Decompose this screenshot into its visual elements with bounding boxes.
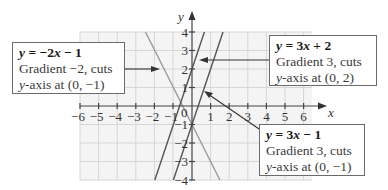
callout-left-gradient: Gradient −2, cuts: [19, 61, 119, 77]
callout-top-right-equation: y = 3x + 2: [276, 38, 371, 54]
svg-text:2: 2: [182, 62, 189, 77]
svg-text:4: 4: [263, 109, 270, 124]
callout-left-intercept: y-axis at (0, −1): [19, 77, 119, 93]
y-axis-label: y: [176, 9, 184, 24]
svg-text:−5: −5: [90, 109, 104, 124]
svg-text:1: 1: [182, 80, 189, 95]
svg-text:−2: −2: [174, 136, 188, 151]
svg-text:3: 3: [182, 43, 189, 58]
svg-text:5: 5: [282, 109, 289, 124]
svg-text:−2: −2: [145, 109, 159, 124]
svg-text:−3: −3: [174, 154, 188, 169]
svg-text:−1: −1: [174, 117, 188, 132]
svg-text:−4: −4: [108, 109, 122, 124]
callout-top-right-gradient: Gradient 3, cuts: [276, 54, 371, 70]
callout-bottom-right-intercept: y-axis at (0, −1): [266, 159, 359, 175]
svg-text:2: 2: [226, 109, 233, 124]
svg-text:4: 4: [182, 25, 189, 40]
callout-bottom-right: y = 3x − 1 Gradient 3, cuts y-axis at (0…: [259, 124, 365, 176]
svg-text:−6: −6: [71, 109, 85, 124]
svg-text:6: 6: [300, 109, 307, 124]
x-axis-label: x: [327, 105, 334, 120]
svg-text:−4: −4: [174, 173, 188, 188]
x-axis-arrow-icon: [318, 103, 327, 110]
callout-bottom-right-equation: y = 3x − 1: [266, 127, 359, 143]
callout-top-right: y = 3x + 2 Gradient 3, cuts y-axis at (0…: [269, 35, 377, 86]
svg-text:−3: −3: [127, 109, 141, 124]
callout-top-right-intercept: y-axis at (0, 2): [276, 70, 371, 86]
svg-text:1: 1: [207, 109, 214, 124]
callout-bottom-right-gradient: Gradient 3, cuts: [266, 143, 359, 159]
callout-left-equation: y = −2x − 1: [19, 45, 119, 61]
y-axis-arrow-icon: [189, 11, 196, 20]
callout-left: y = −2x − 1 Gradient −2, cuts y-axis at …: [12, 42, 125, 94]
